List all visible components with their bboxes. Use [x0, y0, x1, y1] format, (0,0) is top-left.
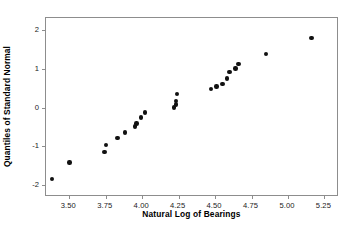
y-tick-label: -1	[32, 141, 39, 150]
x-axis-tick-labels: 3.503.754.004.254.504.755.005.25	[45, 196, 338, 210]
y-axis-title: Quantiles of Standard Normal	[0, 17, 14, 196]
data-point	[102, 150, 106, 154]
data-point	[67, 160, 71, 164]
data-point	[220, 82, 224, 86]
y-tick-label: 0	[35, 102, 39, 111]
scatter-points-layer	[46, 18, 337, 195]
data-point	[50, 177, 54, 181]
data-point	[233, 66, 237, 70]
y-tick-label: 1	[35, 63, 39, 72]
data-point	[139, 115, 143, 119]
y-tick-label: -2	[32, 180, 39, 189]
data-point	[214, 84, 218, 88]
data-point	[227, 70, 231, 74]
data-point	[209, 87, 213, 91]
data-point	[134, 121, 138, 125]
data-point	[115, 136, 119, 140]
data-point	[104, 143, 108, 147]
data-point	[264, 52, 268, 56]
data-point	[309, 36, 313, 40]
data-point	[175, 92, 179, 96]
qq-plot-figure: 3.503.754.004.254.504.755.005.25 210-1-2…	[0, 0, 357, 231]
data-point	[123, 130, 127, 134]
y-tick-label: 2	[35, 24, 39, 33]
data-point	[143, 110, 147, 114]
plot-area	[45, 17, 338, 196]
x-axis-title: Natural Log of Bearings	[45, 209, 338, 219]
data-point	[225, 76, 229, 80]
